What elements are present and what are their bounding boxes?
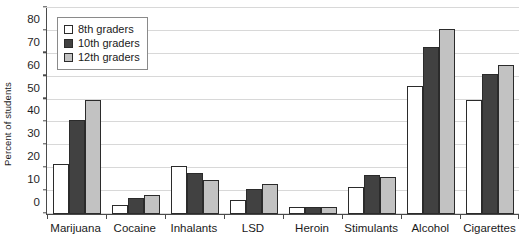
bar [262, 184, 278, 214]
y-tick-label: 40 [27, 104, 40, 116]
y-tick-label: 80 [27, 13, 40, 25]
y-tick-label: 10 [27, 173, 40, 185]
legend-label: 12th graders [78, 51, 140, 63]
bar [128, 198, 144, 214]
legend-swatch-icon [64, 39, 73, 48]
y-tick-label: 20 [27, 150, 40, 162]
x-axis-label: LSD [223, 222, 282, 234]
bar [203, 180, 219, 214]
x-tick-mark [283, 214, 284, 219]
x-axis-label: Cigarettes [460, 222, 519, 234]
bar-chart: Percent of students 0102030405060708090 … [0, 0, 524, 248]
bar [53, 164, 69, 214]
bar-group [224, 8, 283, 214]
bar-group [342, 8, 401, 214]
bar [171, 166, 187, 214]
x-tick-mark [224, 214, 225, 219]
bar [246, 189, 262, 214]
bar [466, 100, 482, 214]
legend-label: 8th graders [78, 23, 134, 35]
chart-legend: 8th graders10th graders12th graders [57, 17, 148, 70]
bar [230, 200, 246, 214]
legend-swatch-icon [64, 25, 73, 34]
y-tick-label: 90 [27, 0, 40, 2]
bar [321, 207, 337, 214]
x-axis-label: Marijuana [46, 222, 105, 234]
bar [187, 173, 203, 214]
x-tick-mark [165, 214, 166, 219]
bar [69, 120, 85, 214]
x-tick-mark [106, 214, 107, 219]
legend-swatch-icon [64, 53, 73, 62]
bar [364, 175, 380, 214]
bar [423, 47, 439, 214]
bar [112, 205, 128, 214]
bar [85, 100, 101, 214]
bar-group [165, 8, 224, 214]
x-tick-mark [47, 214, 48, 219]
x-tick-mark [460, 214, 461, 219]
legend-item: 10th graders [64, 36, 140, 50]
y-tick-label: 50 [27, 82, 40, 94]
x-axis-label: Cocaine [105, 222, 164, 234]
y-tick-label: 0 [34, 196, 40, 208]
bar [348, 187, 364, 214]
bar [439, 29, 455, 214]
bar [498, 65, 514, 214]
legend-label: 10th graders [78, 37, 140, 49]
bar-group [460, 8, 519, 214]
x-axis-label: Heroin [283, 222, 342, 234]
bar [482, 74, 498, 214]
x-tick-mark [342, 214, 343, 219]
bar-group [401, 8, 460, 214]
x-axis-label: Stimulants [342, 222, 401, 234]
bar [289, 207, 305, 214]
bar [144, 195, 160, 214]
bar [380, 177, 396, 214]
legend-item: 12th graders [64, 50, 140, 64]
x-tick-mark [401, 214, 402, 219]
x-axis-label: Inhalants [164, 222, 223, 234]
legend-item: 8th graders [64, 22, 140, 36]
x-tick-mark [518, 214, 519, 219]
y-axis-title: Percent of students [0, 0, 16, 248]
bar-group [283, 8, 342, 214]
y-tick-label: 70 [27, 36, 40, 48]
y-tick-label: 30 [27, 127, 40, 139]
x-axis-label: Alcohol [401, 222, 460, 234]
x-axis-labels: MarijuanaCocaineInhalantsLSDHeroinStimul… [46, 222, 519, 234]
bar [407, 86, 423, 214]
y-tick-label: 60 [27, 59, 40, 71]
bar [305, 207, 321, 214]
